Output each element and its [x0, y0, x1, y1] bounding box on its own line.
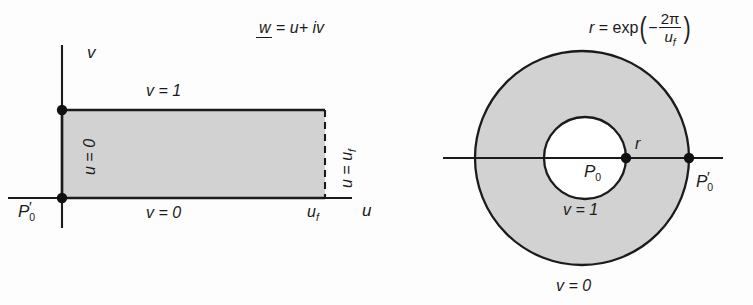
w-plane-formula: w = u+ iv: [258, 20, 324, 36]
r-formula: r = exp(−2πuf): [589, 12, 692, 45]
u-f-tick-base: u: [307, 203, 316, 220]
annulus-outer-point-dot: [684, 153, 694, 163]
w-symbol-underlined: w: [258, 20, 272, 36]
right-edge-label-base: u = u: [338, 152, 355, 188]
fraction-denominator: uf: [659, 28, 682, 44]
v-axis-label: v: [87, 44, 96, 61]
annulus-inner-point-dot: [621, 153, 631, 163]
annulus-center-label: P0: [584, 163, 601, 180]
fraction-denominator-base: u: [664, 28, 672, 45]
annulus-outer-point-label: P0′: [696, 173, 716, 190]
origin-point-label: P0′: [18, 203, 38, 220]
u-f-tick-label: uf: [307, 204, 319, 220]
rectangle-region: [62, 110, 325, 198]
annulus-outer-point-prime: ′: [706, 168, 709, 185]
fraction-denominator-sub: f: [673, 36, 676, 48]
figure-canvas: [0, 0, 753, 305]
inner-circle-label-text: v = 1: [563, 201, 598, 218]
u-f-tick-sub: f: [316, 211, 319, 223]
right-paren-icon: ): [684, 13, 691, 43]
top-edge-label-text: v = 1: [146, 82, 181, 99]
rectangle-corner-dot-bottom-left: [57, 193, 67, 203]
w-formula-equals: =: [272, 19, 290, 36]
origin-point-prime: ′: [28, 198, 31, 215]
r-formula-exp: exp: [613, 19, 639, 36]
annulus-center-base: P: [584, 162, 595, 181]
r-formula-equals: =: [594, 19, 612, 36]
outer-circle-label-text: v = 0: [556, 277, 591, 294]
conformal-mapping-figure: w = u+ iv r = exp(−2πuf) v u v = 1 v = 0…: [0, 0, 753, 305]
inner-radius-label: r: [635, 136, 640, 152]
rectangle-bottom-edge-label: v = 0: [146, 205, 181, 221]
fraction-numerator: 2π: [659, 11, 682, 28]
fraction-2pi-over-uf: 2πuf: [659, 11, 682, 44]
inner-circle-label: v = 1: [563, 202, 598, 218]
outer-circle-label: v = 0: [556, 278, 591, 294]
rectangle-top-edge-label: v = 1: [146, 83, 181, 99]
rectangle-left-edge-label: u = 0: [82, 139, 98, 175]
w-formula-rhs: u+ iv: [290, 19, 324, 36]
r-formula-minus: −: [648, 19, 657, 36]
bottom-edge-label-text: v = 0: [146, 204, 181, 221]
rectangle-corner-dot-top-left: [57, 105, 67, 115]
rectangle-right-edge-label: u = uf: [339, 149, 355, 188]
right-edge-label-sub: f: [346, 149, 358, 152]
u-axis-label: u: [362, 202, 371, 219]
annulus-center-sub: 0: [595, 171, 601, 183]
left-paren-icon: (: [640, 13, 647, 43]
